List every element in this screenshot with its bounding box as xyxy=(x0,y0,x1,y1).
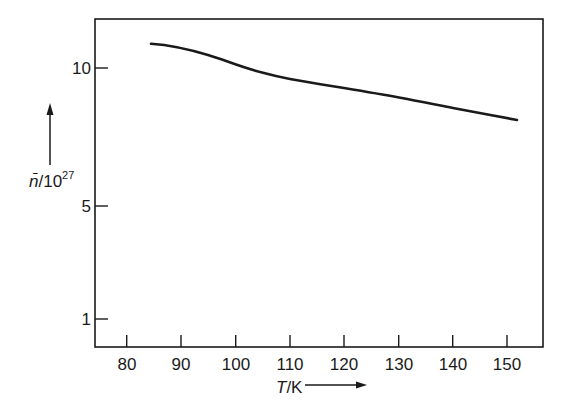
y-tick-label: 10 xyxy=(72,59,91,78)
x-tick-label: 100 xyxy=(222,355,250,374)
x-tick-label: 150 xyxy=(493,355,521,374)
y-tick-label: 5 xyxy=(82,197,91,216)
y-axis-label: n̄/1027 xyxy=(29,103,74,191)
x-tick-label: 90 xyxy=(172,355,191,374)
y-axis: 10 5 1 xyxy=(72,59,108,329)
x-axis: 80 90 100 110 120 130 140 150 xyxy=(118,335,522,374)
svg-text:T/K: T/K xyxy=(276,378,303,397)
y-axis-symbol: n̄ xyxy=(29,172,38,191)
x-tick-label: 140 xyxy=(439,355,467,374)
x-tick-label: 110 xyxy=(276,355,303,374)
svg-text:n̄/1027: n̄/1027 xyxy=(29,169,74,191)
x-axis-label: T/K xyxy=(276,378,367,397)
chart: 10 5 1 80 90 100 110 120 130 140 150 T/K… xyxy=(0,0,572,415)
x-tick-label: 130 xyxy=(385,355,413,374)
arrow-right-icon xyxy=(356,382,367,389)
x-tick-label: 80 xyxy=(118,355,137,374)
y-axis-exponent: 27 xyxy=(62,169,74,181)
plot-frame xyxy=(95,19,543,347)
y-tick-label: 1 xyxy=(82,310,91,329)
x-axis-unit: /K xyxy=(286,378,303,397)
y-axis-unit: /10 xyxy=(38,172,62,191)
x-tick-label: 120 xyxy=(330,355,358,374)
data-line xyxy=(151,44,517,120)
arrow-up-icon xyxy=(47,103,54,115)
